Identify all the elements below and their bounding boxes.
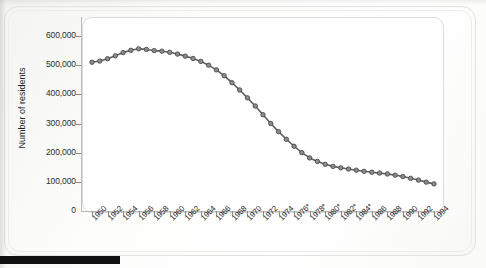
data-point-marker xyxy=(315,159,319,163)
data-point-marker xyxy=(292,144,296,148)
data-point-marker xyxy=(408,176,412,180)
data-point-marker xyxy=(269,121,273,125)
data-point-marker xyxy=(206,63,210,67)
data-point-marker xyxy=(377,171,381,175)
data-point-marker xyxy=(339,166,343,170)
data-point-marker xyxy=(237,88,241,92)
data-point-marker xyxy=(105,57,109,61)
scan-top-shadow xyxy=(0,0,486,5)
data-point-marker xyxy=(98,59,102,63)
series-markers xyxy=(90,47,436,186)
data-point-marker xyxy=(175,52,179,56)
data-point-marker xyxy=(199,59,203,63)
scan-artifact-bar xyxy=(0,256,120,264)
data-point-marker xyxy=(424,180,428,184)
data-point-marker xyxy=(300,150,304,154)
data-point-marker xyxy=(160,49,164,53)
data-point-marker xyxy=(136,47,140,51)
screenshot-page: 0100,000200,000300,000400,000500,000600,… xyxy=(0,0,486,268)
data-point-marker xyxy=(90,60,94,64)
data-point-marker xyxy=(284,137,288,141)
line-chart-series xyxy=(82,17,442,211)
data-point-marker xyxy=(183,54,187,58)
data-point-marker xyxy=(416,178,420,182)
data-point-marker xyxy=(222,73,226,77)
data-point-marker xyxy=(113,54,117,58)
data-point-marker xyxy=(401,174,405,178)
data-point-marker xyxy=(129,48,133,52)
data-point-marker xyxy=(370,170,374,174)
scan-left-shadow xyxy=(0,0,6,268)
data-point-marker xyxy=(393,173,397,177)
data-point-marker xyxy=(168,50,172,54)
data-point-marker xyxy=(261,113,265,117)
data-point-marker xyxy=(214,68,218,72)
data-point-marker xyxy=(121,50,125,54)
data-point-marker xyxy=(432,182,436,186)
data-point-marker xyxy=(331,164,335,168)
data-point-marker xyxy=(362,169,366,173)
data-point-marker xyxy=(354,168,358,172)
data-point-marker xyxy=(245,96,249,100)
data-point-marker xyxy=(307,156,311,160)
data-point-marker xyxy=(230,80,234,84)
data-point-marker xyxy=(385,172,389,176)
data-point-marker xyxy=(346,167,350,171)
data-point-marker xyxy=(152,48,156,52)
data-point-marker xyxy=(276,129,280,133)
data-point-marker xyxy=(323,162,327,166)
data-point-marker xyxy=(253,104,257,108)
data-point-marker xyxy=(144,47,148,51)
data-point-marker xyxy=(191,56,195,60)
